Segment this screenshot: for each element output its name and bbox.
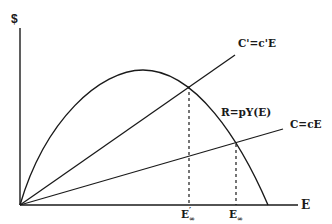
e-inf-prime-main: E [181,208,189,220]
e-inf-prime-sub: ∞ [189,214,195,223]
cost-line-low-label: C=cE [290,118,322,130]
e-inf-prime-mark: ′ [189,204,191,214]
cost-line-low [20,129,283,205]
e-inf-prime-label: E ′ ∞ [181,204,195,223]
revenue-curve [20,70,268,205]
e-inf-sub: ∞ [237,214,243,223]
e-inf-label: E ∞ [229,208,243,223]
cost-line-high [20,55,235,205]
x-axis-label: E [301,198,310,212]
y-axis-label: $ [11,12,18,26]
e-inf-main: E [229,208,237,220]
cost-line-high-label: C'=c'E [238,37,276,49]
revenue-curve-label: R=pY(E) [221,106,271,118]
bioeconomic-diagram: $ E C'=c'E R=pY(E) C=cE E ′ ∞ E ∞ [0,0,332,224]
